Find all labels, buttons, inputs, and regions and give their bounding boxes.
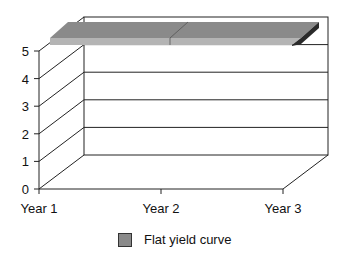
y-tick-label-1: 1 (22, 154, 29, 169)
y-tick-marks (34, 51, 39, 189)
gridlines (84, 45, 328, 128)
x-tick-label-year-1: Year 1 (20, 201, 57, 216)
legend-label-flat-yield-curve: Flat yield curve (144, 232, 231, 247)
y-tick-label-4: 4 (22, 72, 29, 87)
floor-edge (283, 155, 328, 189)
y-tick-label-5: 5 (22, 44, 29, 59)
x-tick-label-year-2: Year 2 (142, 201, 179, 216)
y-tick-labels: 0 1 2 3 4 5 (22, 44, 29, 197)
bar-top-face (50, 22, 319, 38)
bar-flat-yield-curve (50, 22, 319, 46)
y-tick-label-0: 0 (22, 182, 29, 197)
legend-swatch-flat-yield-curve (118, 233, 132, 247)
x-tick-label-year-3: Year 3 (264, 201, 301, 216)
x-tick-marks (39, 189, 283, 194)
legend: Flat yield curve (118, 232, 231, 247)
y-tick-label-2: 2 (22, 127, 29, 142)
bar-front-face (50, 38, 301, 45)
y-tick-label-3: 3 (22, 99, 29, 114)
x-tick-labels: Year 1 Year 2 Year 3 (20, 201, 301, 216)
chart-canvas: 0 1 2 3 4 5 Year 1 Year 2 Year 3 (0, 0, 343, 265)
